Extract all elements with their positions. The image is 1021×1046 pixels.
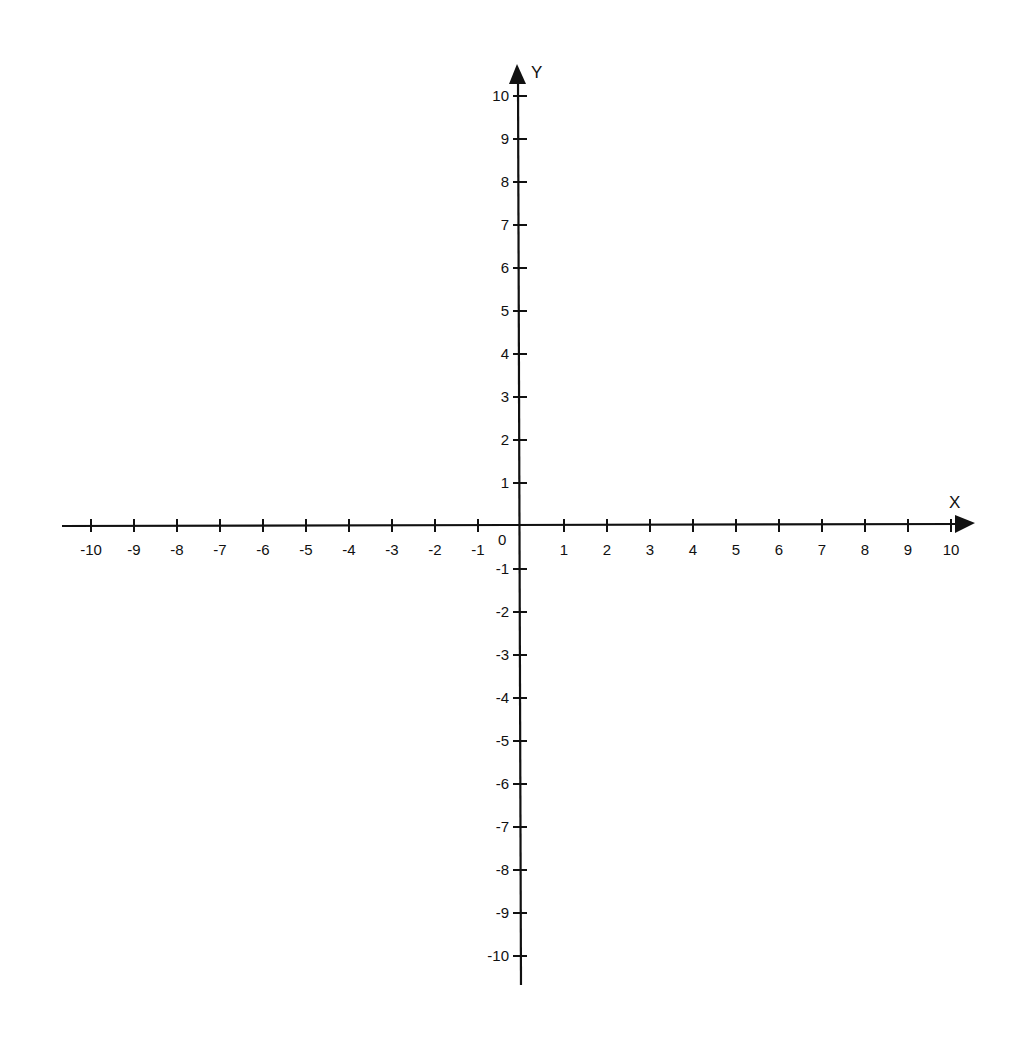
x-tick-label: -7 xyxy=(213,541,226,558)
x-tick-label: 10 xyxy=(943,541,960,558)
x-tick-label: -10 xyxy=(80,541,102,558)
x-tick-label: -1 xyxy=(471,541,484,558)
x-axis-line xyxy=(62,524,960,526)
y-tick-label: -8 xyxy=(496,861,509,878)
x-tick-label: -4 xyxy=(342,541,355,558)
y-tick-label: -4 xyxy=(496,689,509,706)
y-tick-label: 3 xyxy=(501,388,509,405)
x-axis-arrow-icon xyxy=(955,515,975,533)
x-axis-label: X xyxy=(949,493,960,512)
y-tick-label: -5 xyxy=(496,732,509,749)
x-tick-label: -3 xyxy=(385,541,398,558)
x-tick-label: -5 xyxy=(299,541,312,558)
x-tick-label: 4 xyxy=(689,541,697,558)
y-axis-line xyxy=(518,80,521,985)
y-tick-label: 4 xyxy=(501,345,509,362)
y-tick-label: 7 xyxy=(501,216,509,233)
origin-label: 0 xyxy=(498,531,506,548)
y-tick-label: 10 xyxy=(492,87,509,104)
y-tick-label: 5 xyxy=(501,302,509,319)
y-tick-label: -10 xyxy=(487,947,509,964)
x-tick-label: 1 xyxy=(560,541,568,558)
x-tick-label: 2 xyxy=(603,541,611,558)
x-tick-label: 6 xyxy=(775,541,783,558)
y-axis-arrow-icon xyxy=(509,64,526,84)
x-tick-label: -9 xyxy=(127,541,140,558)
x-tick-label: 5 xyxy=(732,541,740,558)
y-tick-label: 9 xyxy=(501,130,509,147)
y-tick-label: -2 xyxy=(496,603,509,620)
x-tick-label: -8 xyxy=(170,541,183,558)
y-tick-label: 8 xyxy=(501,173,509,190)
y-tick-label: -7 xyxy=(496,818,509,835)
y-tick-label: 6 xyxy=(501,259,509,276)
x-tick-label: 7 xyxy=(818,541,826,558)
x-tick-label: 9 xyxy=(904,541,912,558)
y-tick-label: -6 xyxy=(496,775,509,792)
y-tick-label: -1 xyxy=(496,560,509,577)
x-tick-label: -6 xyxy=(256,541,269,558)
x-tick-label: 8 xyxy=(861,541,869,558)
y-tick-label: 1 xyxy=(501,474,509,491)
x-tick-label: -2 xyxy=(428,541,441,558)
y-tick-label: -9 xyxy=(496,904,509,921)
coordinate-plane: -10-9-8-7-6-5-4-3-2-112345678910 1098765… xyxy=(0,0,1021,1046)
y-axis-label: Y xyxy=(531,63,542,82)
y-tick-label: 2 xyxy=(501,431,509,448)
x-tick-label: 3 xyxy=(646,541,654,558)
y-tick-label: -3 xyxy=(496,646,509,663)
